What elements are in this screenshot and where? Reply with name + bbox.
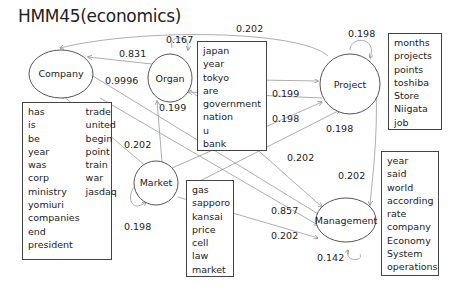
word: ministry <box>28 185 80 198</box>
edge-label: 0.142 <box>317 252 344 263</box>
word: united <box>86 118 117 131</box>
edge-management-self <box>347 250 360 260</box>
edge-label: 0.9996 <box>105 75 138 86</box>
word: trade <box>86 105 117 118</box>
word: are <box>203 84 261 97</box>
node-label-organ: Organ <box>155 73 184 84</box>
edge-label: 0.857 <box>271 205 298 216</box>
word: point <box>86 145 117 158</box>
edge-label: 0.198 <box>272 113 299 124</box>
word: year <box>203 57 261 70</box>
word: world <box>387 181 433 194</box>
word: corp <box>28 171 80 184</box>
word: year <box>387 154 433 167</box>
edge-label: 0.202 <box>124 139 151 150</box>
word: yomiuri <box>28 198 80 211</box>
word: year <box>28 145 80 158</box>
word: operations <box>387 260 433 273</box>
word: was <box>28 158 80 171</box>
word: cell <box>192 236 228 249</box>
word: be <box>28 132 80 145</box>
word: Economy <box>387 234 433 247</box>
word: begin <box>86 132 117 145</box>
edge-label: 0.202 <box>271 230 298 241</box>
word: u <box>203 124 261 137</box>
word: months <box>394 36 436 49</box>
word: japan <box>203 44 261 57</box>
word: according <box>387 194 433 207</box>
word: company <box>387 220 433 233</box>
word: said <box>387 167 433 180</box>
edge-label: 0.202 <box>338 170 365 181</box>
word: nation <box>203 110 261 123</box>
word: Store <box>394 89 436 102</box>
word: is <box>28 118 80 131</box>
word-box-project: months projects points toshiba Store Nii… <box>388 33 442 130</box>
word: market <box>192 263 228 276</box>
edge-label: 0.198 <box>326 123 353 134</box>
word: jasdaq <box>86 185 117 198</box>
word: rate <box>387 207 433 220</box>
word: projects <box>394 49 436 62</box>
word: law <box>192 249 228 262</box>
word: war <box>86 171 117 184</box>
edge-label: 0.198 <box>124 221 151 232</box>
word: gas <box>192 183 228 196</box>
edge-label: 0.167 <box>166 34 193 45</box>
word: government <box>203 97 261 110</box>
edge-label: 0.202 <box>236 23 263 34</box>
word-column: has is be year was corp ministry yomiuri… <box>28 105 80 257</box>
word: System <box>387 247 433 260</box>
word: Niigata <box>394 102 436 115</box>
word: bank <box>203 137 261 150</box>
word: sapporo <box>192 196 228 209</box>
word-box-market: gas sapporo kansai price cell law market <box>186 180 234 277</box>
word: toshiba <box>394 76 436 89</box>
word: points <box>394 63 436 76</box>
word: job <box>394 116 436 129</box>
edge-project-company <box>60 35 328 56</box>
word: president <box>28 238 80 251</box>
word: end <box>28 225 80 238</box>
word-box-organ: japan year tokyo are government nation u… <box>197 41 267 151</box>
word: train <box>86 158 117 171</box>
edge-label: 0.199 <box>159 102 186 113</box>
node-label-market: Market <box>140 177 173 188</box>
word: tokyo <box>203 71 261 84</box>
word-column: trade united begin point train war jasda… <box>86 105 117 257</box>
edge-label: 0.199 <box>272 88 299 99</box>
word: price <box>192 223 228 236</box>
word: companies <box>28 211 80 224</box>
word-box-management: year said world according rate company E… <box>381 151 439 276</box>
node-label-project: Project <box>334 79 367 90</box>
edge-label: 0.198 <box>348 28 375 39</box>
node-label-company: Company <box>38 68 84 79</box>
word: kansai <box>192 210 228 223</box>
edge-label: 0.831 <box>119 48 146 59</box>
node-label-management: Management <box>315 215 378 226</box>
word: has <box>28 105 80 118</box>
edge-label: 0.202 <box>287 152 314 163</box>
word-box-company: has is be year was corp ministry yomiuri… <box>22 102 112 260</box>
